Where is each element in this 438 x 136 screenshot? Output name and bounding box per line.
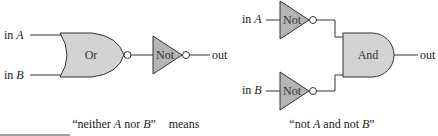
- input-prefix: in: [242, 83, 254, 97]
- input-var: A: [253, 12, 262, 26]
- caption-text: ”: [369, 117, 374, 131]
- top-not-to-and-wire: [317, 20, 344, 37]
- caption-text: “neither: [72, 117, 114, 131]
- input-var: B: [254, 83, 262, 97]
- caption-text: “not: [289, 117, 313, 131]
- left-output-label: out: [212, 48, 228, 62]
- input-prefix: in: [4, 68, 16, 82]
- top-not-gate-label: Not: [283, 13, 302, 27]
- caption-text: and not: [320, 117, 362, 131]
- or-inversion-bubble: [124, 52, 131, 59]
- caption-connector: means: [169, 117, 200, 131]
- input-var: B: [16, 68, 24, 82]
- bottom-not-gate-label: Not: [283, 84, 302, 98]
- or-gate-label: Or: [85, 48, 98, 62]
- caption-left: “neither A nor B”: [72, 117, 156, 131]
- right-circuit: in A in B Not Not And out: [242, 1, 436, 110]
- logic-diagram: in A in B Or Not out in A in B Not: [0, 0, 438, 136]
- input-prefix: in: [242, 12, 254, 26]
- left-input-b-label: in B: [4, 68, 24, 82]
- bottom-not-bubble: [310, 88, 317, 95]
- caption-right: “not A and not B”: [289, 117, 374, 131]
- not-inversion-bubble: [183, 52, 190, 59]
- caption-text: ”: [151, 117, 156, 131]
- bottom-not-to-and-wire: [317, 75, 344, 91]
- caption-text: nor: [121, 117, 143, 131]
- input-prefix: in: [4, 28, 16, 42]
- left-input-a-label: in A: [4, 28, 24, 42]
- and-gate-label: And: [358, 48, 379, 62]
- right-output-label: out: [420, 48, 436, 62]
- top-not-bubble: [310, 17, 317, 24]
- right-input-a-label: in A: [242, 12, 262, 26]
- left-circuit: in A in B Or Not out: [4, 28, 228, 82]
- input-var: A: [15, 28, 24, 42]
- right-input-b-label: in B: [242, 83, 262, 97]
- left-not-gate-label: Not: [156, 48, 175, 62]
